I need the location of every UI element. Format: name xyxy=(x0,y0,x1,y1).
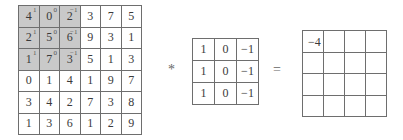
output-cell xyxy=(303,52,324,74)
kernel-weight: 0 xyxy=(54,49,58,57)
input-cell: 3 xyxy=(121,49,142,71)
kernel-cell: 0 xyxy=(215,39,237,61)
output-cell xyxy=(366,31,387,53)
input-cell: 3 xyxy=(101,27,122,49)
input-cell: 1 xyxy=(80,70,101,92)
input-cell: 4 xyxy=(60,70,81,92)
output-row: −4 xyxy=(303,31,387,53)
input-cell: 0 xyxy=(19,70,40,92)
input-cell: 6−1 xyxy=(60,27,81,49)
output-row xyxy=(303,74,387,96)
input-cell: 7 xyxy=(101,6,122,28)
input-cell: 2 xyxy=(101,113,122,135)
input-cell: 3 xyxy=(101,92,122,114)
output-cell xyxy=(366,74,387,96)
input-cell: 50 xyxy=(39,27,60,49)
cell-value: 5 xyxy=(46,30,52,44)
input-cell: 3 xyxy=(19,92,40,114)
kernel-cell: −1 xyxy=(237,39,259,61)
input-cell: 5 xyxy=(121,6,142,28)
input-cell: 4 xyxy=(39,92,60,114)
kernel-cell: 1 xyxy=(193,39,215,61)
output-cell xyxy=(366,52,387,74)
input-cell: 1 xyxy=(121,27,142,49)
kernel-weight: −1 xyxy=(70,49,77,57)
cell-value: 0 xyxy=(46,9,52,23)
cell-value: 4 xyxy=(26,9,32,23)
input-cell: 9 xyxy=(80,27,101,49)
input-cell: 8 xyxy=(121,92,142,114)
output-cell xyxy=(345,74,366,96)
output-cell xyxy=(366,95,387,117)
kernel-cell: −1 xyxy=(237,61,259,83)
input-cell: 7 xyxy=(121,70,142,92)
kernel-cell: 0 xyxy=(215,61,237,83)
output-cell: −4 xyxy=(303,31,324,53)
kernel-row: 1 0 −1 xyxy=(193,83,259,105)
output-cell xyxy=(324,95,345,117)
kernel-cell: 1 xyxy=(193,83,215,105)
input-cell: 2−1 xyxy=(60,6,81,28)
output-cell xyxy=(324,74,345,96)
output-matrix: −4 xyxy=(302,30,387,117)
equals-operator: = xyxy=(273,62,281,78)
input-cell: 1 xyxy=(80,113,101,135)
output-row xyxy=(303,95,387,117)
kernel-weight: −1 xyxy=(70,6,77,14)
input-cell: 70 xyxy=(39,49,60,71)
input-matrix: 41 00 2−1 3 7 5 21 50 6−1 9 3 1 11 70 3−… xyxy=(18,5,142,135)
kernel-weight: 0 xyxy=(54,28,58,36)
input-cell: 1 xyxy=(101,49,122,71)
input-cell: 00 xyxy=(39,6,60,28)
output-cell xyxy=(324,31,345,53)
kernel-weight: −1 xyxy=(70,28,77,36)
kernel-matrix: 1 0 −1 1 0 −1 1 0 −1 xyxy=(192,38,259,105)
output-cell xyxy=(303,95,324,117)
input-row: 1 3 6 1 2 9 xyxy=(19,113,142,135)
kernel-row: 1 0 −1 xyxy=(193,39,259,61)
input-cell: 3 xyxy=(80,6,101,28)
kernel-row: 1 0 −1 xyxy=(193,61,259,83)
input-row: 3 4 2 7 3 8 xyxy=(19,92,142,114)
output-cell xyxy=(324,52,345,74)
cell-value: 1 xyxy=(26,52,32,66)
input-cell: 3−1 xyxy=(60,49,81,71)
input-row: 21 50 6−1 9 3 1 xyxy=(19,27,142,49)
input-row: 0 1 4 1 9 7 xyxy=(19,70,142,92)
cell-value: 7 xyxy=(46,52,52,66)
kernel-weight: 1 xyxy=(33,28,37,36)
cell-value: 2 xyxy=(26,30,32,44)
kernel-cell: −1 xyxy=(237,83,259,105)
kernel-weight: 0 xyxy=(54,6,58,14)
input-cell: 21 xyxy=(19,27,40,49)
kernel-cell: 0 xyxy=(215,83,237,105)
input-cell: 9 xyxy=(101,70,122,92)
input-cell: 5 xyxy=(80,49,101,71)
input-cell: 6 xyxy=(60,113,81,135)
output-cell xyxy=(345,31,366,53)
input-cell: 3 xyxy=(39,113,60,135)
kernel-weight: 1 xyxy=(33,49,37,57)
input-cell: 11 xyxy=(19,49,40,71)
input-cell: 9 xyxy=(121,113,142,135)
output-cell xyxy=(345,95,366,117)
kernel-weight: 1 xyxy=(33,6,37,14)
kernel-cell: 1 xyxy=(193,61,215,83)
output-row xyxy=(303,52,387,74)
input-cell: 1 xyxy=(19,113,40,135)
input-cell: 1 xyxy=(39,70,60,92)
convolution-operator: * xyxy=(168,62,175,78)
input-cell: 2 xyxy=(60,92,81,114)
input-row: 11 70 3−1 5 1 3 xyxy=(19,49,142,71)
input-cell: 41 xyxy=(19,6,40,28)
output-cell xyxy=(303,74,324,96)
input-row: 41 00 2−1 3 7 5 xyxy=(19,6,142,28)
input-cell: 7 xyxy=(80,92,101,114)
output-cell xyxy=(345,52,366,74)
